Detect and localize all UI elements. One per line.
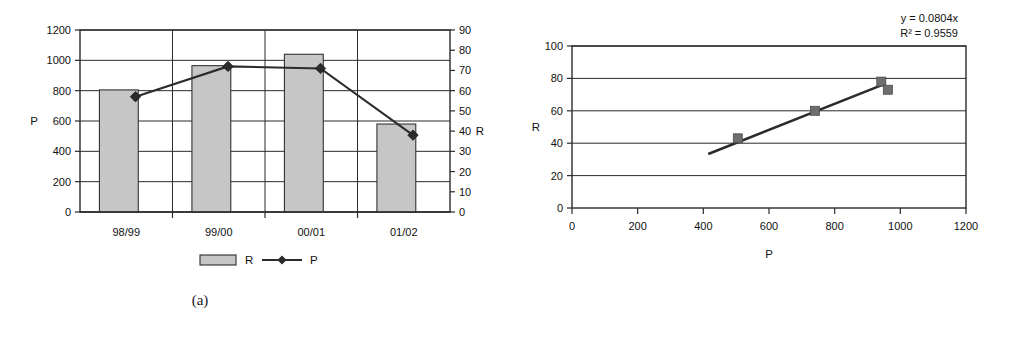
x-axis-tick-label: 0 bbox=[569, 220, 575, 232]
data-point-square bbox=[733, 134, 742, 143]
x-axis-tick-label: 1000 bbox=[888, 220, 912, 232]
data-point-square bbox=[810, 106, 819, 115]
y-axis-tick-label-left: 600 bbox=[53, 115, 71, 127]
bar-00-01 bbox=[284, 54, 323, 212]
y-axis-tick-label-right: 0 bbox=[459, 206, 465, 218]
y-axis-tick-label: 100 bbox=[545, 40, 563, 52]
y-axis-tick-label: 80 bbox=[551, 72, 563, 84]
y-axis-tick-label-right: 40 bbox=[459, 125, 471, 137]
x-axis-tick-label: 800 bbox=[825, 220, 843, 232]
y-axis-tick-label: 20 bbox=[551, 170, 563, 182]
legend-label-p: P bbox=[310, 254, 318, 266]
y-axis-tick-label-left: 200 bbox=[53, 176, 71, 188]
y-axis-title-right: R bbox=[476, 125, 484, 137]
x-axis-tick-label: 200 bbox=[628, 220, 646, 232]
trendline-r2-label: R² = 0.9559 bbox=[900, 27, 958, 39]
chart-panel-b: 020406080100020040060080010001200RPy = 0… bbox=[506, 0, 1012, 338]
x-axis-tick-label: 600 bbox=[760, 220, 778, 232]
combo-chart-a: 0200400600800100012000102030405060708090… bbox=[0, 0, 506, 290]
y-axis-tick-label-right: 50 bbox=[459, 105, 471, 117]
y-axis-tick-label-right: 80 bbox=[459, 44, 471, 56]
y-axis-tick-label: 60 bbox=[551, 105, 563, 117]
y-axis-title-left: P bbox=[30, 115, 38, 127]
y-axis-tick-label-right: 10 bbox=[459, 186, 471, 198]
line-series-p bbox=[136, 66, 414, 135]
y-axis-tick-label-right: 20 bbox=[459, 166, 471, 178]
y-axis-title: R bbox=[532, 121, 540, 133]
legend-marker-diamond-p bbox=[277, 255, 286, 264]
scatter-chart-b: 020406080100020040060080010001200RPy = 0… bbox=[506, 0, 1012, 290]
legend-label-r: R bbox=[245, 254, 253, 266]
plot-area-border bbox=[572, 46, 966, 208]
bar-99-00 bbox=[192, 66, 231, 212]
x-axis-category-label: 00/01 bbox=[297, 226, 325, 238]
x-axis-title: P bbox=[765, 248, 773, 260]
x-axis-category-label: 98/99 bbox=[112, 226, 140, 238]
y-axis-tick-label: 0 bbox=[557, 202, 563, 214]
dual-chart-figure: 0200400600800100012000102030405060708090… bbox=[0, 0, 1012, 338]
legend-swatch-r bbox=[200, 255, 236, 265]
y-axis-tick-label-right: 30 bbox=[459, 145, 471, 157]
y-axis-tick-label-left: 400 bbox=[53, 145, 71, 157]
x-axis-tick-label: 1200 bbox=[954, 220, 978, 232]
x-axis-category-label: 99/00 bbox=[205, 226, 233, 238]
bar-98-99 bbox=[99, 90, 138, 212]
y-axis-tick-label-right: 70 bbox=[459, 64, 471, 76]
y-axis-tick-label-left: 1000 bbox=[47, 54, 71, 66]
trendline-equation-label: y = 0.0804x bbox=[901, 12, 959, 24]
data-point-square bbox=[877, 77, 886, 86]
y-axis-tick-label-left: 0 bbox=[65, 206, 71, 218]
x-axis-tick-label: 400 bbox=[694, 220, 712, 232]
y-axis-tick-label-right: 60 bbox=[459, 85, 471, 97]
chart-panel-a: 0200400600800100012000102030405060708090… bbox=[0, 0, 506, 338]
data-point-square bbox=[883, 85, 892, 94]
y-axis-tick-label-left: 800 bbox=[53, 85, 71, 97]
caption-a: (a) bbox=[0, 292, 400, 309]
y-axis-tick-label-right: 90 bbox=[459, 24, 471, 36]
y-axis-tick-label-left: 1200 bbox=[47, 24, 71, 36]
x-axis-category-label: 01/02 bbox=[390, 226, 418, 238]
y-axis-tick-label: 40 bbox=[551, 137, 563, 149]
